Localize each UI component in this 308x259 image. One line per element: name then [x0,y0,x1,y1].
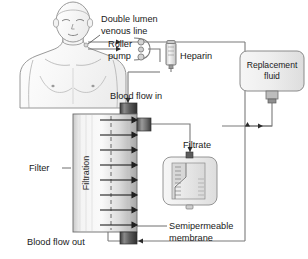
replacement-fluid-label-line1: Replacement [247,60,298,70]
leader-double-lumen [88,35,100,44]
filtrate-label: Filtrate [183,140,211,150]
syringe-nozzle [169,65,173,69]
filter-filtrate-port [137,118,151,131]
double-lumen-label-line1: Double lumen [101,14,158,24]
roller-pump[interactable] [134,38,150,60]
filtrate-collection-bag[interactable] [163,152,217,209]
double-lumen-label-line2: venous line [101,26,147,36]
roller-pump-label-line2: pump [108,51,131,61]
filter-top-cap [120,103,137,114]
replacement-bag-outlet [266,91,278,99]
heparin-label: Heparin [180,51,212,61]
filtrate-bag-outlet [186,205,193,209]
haemofilter[interactable]: Filtration [73,103,151,244]
flow-arrow-return-down [245,122,250,127]
catheter-insertion-point [84,43,88,47]
filter-label: Filter [29,163,49,173]
heparin-syringe[interactable] [166,41,176,69]
roller-3 [138,54,144,60]
flow-arrow-replacement [258,124,263,129]
filtrate-bag-inlet [186,152,193,158]
filtration-label: Filtration [81,156,91,191]
syringe-plunger-head [167,41,175,44]
blood-flow-out-label: Blood flow out [27,237,85,247]
roller-pump-label-line1: Roller [108,39,132,49]
haemofiltration-diagram: Filtration [0,0,308,259]
semipermeable-label-line1: Semipermeable [169,221,233,231]
roller-1 [138,39,144,45]
blood-flow-in-label: Blood flow in [110,91,162,101]
syringe-barrel [166,43,176,65]
replacement-fluid-line-a [222,102,272,126]
flow-arrow-return-bottom [138,239,143,244]
semipermeable-label-line2: membrane [169,233,213,243]
roller-2 [138,47,143,52]
replacement-bag-spike [268,99,276,103]
replacement-fluid-label-line2: fluid [264,71,280,81]
filter-bottom-cap [120,232,137,244]
replacement-fluid-bag[interactable]: Replacement fluid [240,51,304,103]
